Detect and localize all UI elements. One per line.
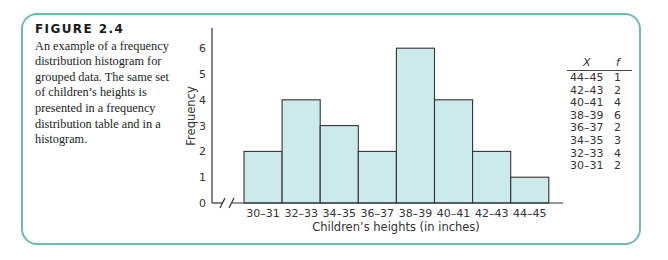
y-tick-label: 3 xyxy=(199,120,206,133)
cell-x: 30–31 xyxy=(567,160,614,173)
x-tick-label: 40–41 xyxy=(437,207,471,220)
x-tick-label: 34–35 xyxy=(323,207,357,220)
histogram-bar xyxy=(396,48,434,203)
y-axis-label: Frequency xyxy=(184,86,198,146)
histogram-bar xyxy=(358,151,396,203)
axis-break-icon xyxy=(220,198,234,208)
frequency-table: X f 44–451 42–432 40–414 38–396 36–372 3… xyxy=(567,56,632,173)
y-tick-label: 2 xyxy=(199,145,206,158)
x-tick-label: 38–39 xyxy=(399,207,433,220)
histogram-bars xyxy=(244,48,549,203)
table-row: 34–353 xyxy=(567,135,632,148)
x-tick-labels: 30–3132–3334–3536–3738–3940–4142–4344–45 xyxy=(246,207,546,220)
cell-f: 2 xyxy=(614,160,630,173)
histogram-bar xyxy=(282,100,320,203)
header-x: X xyxy=(567,56,614,69)
histogram-bar xyxy=(511,177,549,203)
y-tick-label: 1 xyxy=(199,171,206,184)
x-tick-label: 32–33 xyxy=(284,207,318,220)
table-row: 30–312 xyxy=(567,160,632,173)
cell-f: 1 xyxy=(614,72,630,85)
y-tick-label: 0 xyxy=(199,197,206,210)
cell-f: 4 xyxy=(614,97,630,110)
x-axis-label: Children’s heights (in inches) xyxy=(312,220,480,234)
table-row: 44–451 xyxy=(567,72,632,85)
y-tick-label: 6 xyxy=(199,42,206,55)
table-body: 44–451 42–432 40–414 38–396 36–372 34–35… xyxy=(567,72,632,173)
histogram-bar xyxy=(244,151,282,203)
x-tick-label: 36–37 xyxy=(361,207,395,220)
histogram-bar xyxy=(435,100,473,203)
y-tick-label: 5 xyxy=(199,68,206,81)
x-tick-label: 44–45 xyxy=(513,207,547,220)
x-tick-label: 42–43 xyxy=(475,207,509,220)
histogram-bar xyxy=(473,151,511,203)
x-tick-label: 30–31 xyxy=(246,207,280,220)
cell-x: 44–45 xyxy=(567,72,614,85)
header-f: f xyxy=(614,56,632,69)
cell-x: 40–41 xyxy=(567,97,614,110)
cell-f: 3 xyxy=(614,135,630,148)
cell-x: 34–35 xyxy=(567,135,614,148)
table-header: X f xyxy=(567,56,632,71)
y-tick-label: 4 xyxy=(199,94,206,107)
y-tick-labels: 0123456 xyxy=(199,42,206,210)
histogram-bar xyxy=(320,126,358,203)
table-row: 40–414 xyxy=(567,97,632,110)
